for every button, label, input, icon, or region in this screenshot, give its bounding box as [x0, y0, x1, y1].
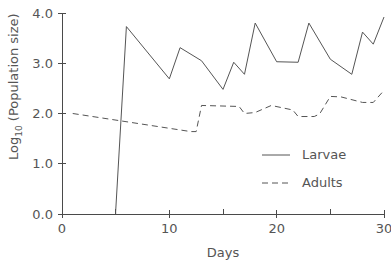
x-tick-label: 20 — [268, 221, 285, 236]
series-line-larvae — [116, 17, 384, 214]
line-chart-svg: 0.01.02.03.04.0 0102030 Log10 (Populatio… — [0, 0, 391, 265]
y-tick-label: 4.0 — [32, 6, 53, 21]
y-axis-title: Log10 (Population size) — [6, 13, 24, 160]
y-tick-label: 3.0 — [32, 56, 53, 71]
x-axis-title: Days — [207, 245, 240, 260]
legend-label-larvae: Larvae — [302, 147, 346, 162]
y-axis-title-main: Log — [6, 137, 21, 160]
y-tick-label: 2.0 — [32, 106, 53, 121]
y-axis-title-subscript: 10 — [14, 125, 24, 137]
y-axis-title-rest: (Population size) — [6, 13, 21, 125]
x-tick-label: 10 — [161, 221, 178, 236]
y-axis-title-group: Log10 (Population size) — [6, 13, 24, 160]
x-tick-label: 30 — [376, 221, 391, 236]
x-tick-label: 0 — [58, 221, 66, 236]
y-tick-label: 1.0 — [32, 156, 53, 171]
series-line-adults — [73, 90, 384, 131]
legend: Larvae Adults — [262, 147, 346, 190]
axes-group: 0.01.02.03.04.0 0102030 — [32, 6, 391, 237]
y-tick-label: 0.0 — [32, 207, 53, 222]
legend-label-adults: Adults — [302, 175, 343, 190]
y-axis-ticks: 0.01.02.03.04.0 — [32, 6, 66, 222]
chart-container: 0.01.02.03.04.0 0102030 Log10 (Populatio… — [0, 0, 391, 265]
x-axis-ticks: 0102030 — [58, 209, 391, 236]
